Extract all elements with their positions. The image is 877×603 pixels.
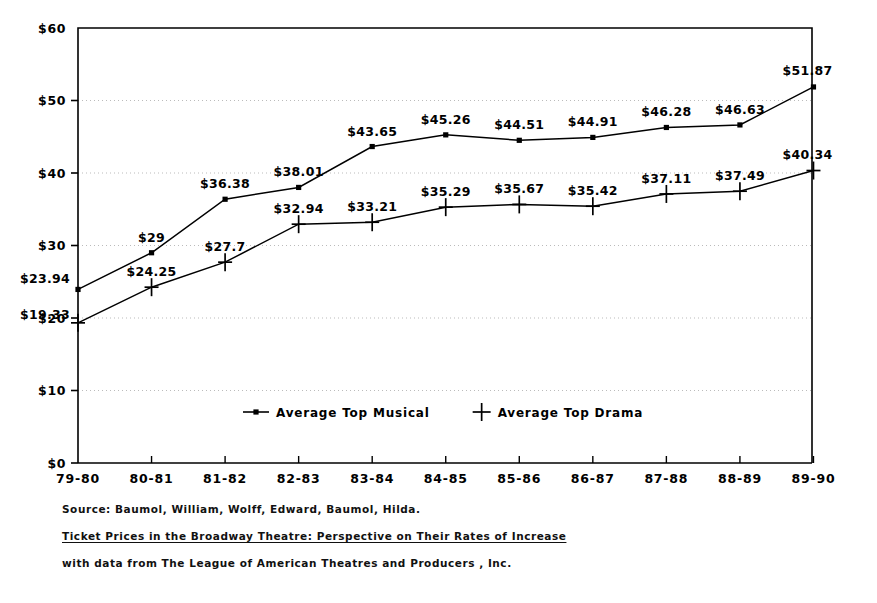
data-point-marker <box>811 84 816 89</box>
data-point-marker <box>443 132 448 137</box>
data-point-label: $46.28 <box>641 104 691 119</box>
data-point-label: $19.33 <box>20 307 70 322</box>
data-point-label: $23.94 <box>20 271 70 286</box>
legend-square-marker-icon <box>243 409 269 414</box>
source-title-line: Ticket Prices in the Broadway Theatre: P… <box>62 530 822 543</box>
data-point-label: $43.65 <box>347 124 397 139</box>
y-axis-tick-label: $30 <box>38 238 66 253</box>
legend-item-musical[interactable]: Average Top Musical <box>243 406 430 420</box>
data-point-label: $24.25 <box>127 264 177 279</box>
y-axis-tick-label: $0 <box>47 456 66 471</box>
data-point-label: $32.94 <box>274 201 324 216</box>
data-point-marker <box>370 144 375 149</box>
source-dataset-line: with data from The League of American Th… <box>62 557 822 570</box>
data-point-marker <box>75 287 80 292</box>
data-point-label: $44.91 <box>568 114 618 129</box>
data-point-label: $35.29 <box>421 184 471 199</box>
legend-item-drama[interactable]: Average Top Drama <box>473 403 644 421</box>
data-point-label: $46.63 <box>715 102 765 117</box>
data-point-marker <box>590 135 595 140</box>
chart-container: $0$10$20$30$40$50$6079-8080-8181-8282-83… <box>0 0 877 603</box>
data-point-label: $27.7 <box>205 239 246 254</box>
x-axis-tick-label: 80-81 <box>130 471 174 486</box>
x-axis-tick-label: 84-85 <box>424 471 468 486</box>
data-point-marker <box>222 197 227 202</box>
source-citation-line: Source: Baumol, William, Wolff, Edward, … <box>62 503 822 516</box>
data-point-label: $45.26 <box>421 112 471 127</box>
x-axis-tick-label: 85-86 <box>497 471 541 486</box>
y-axis-tick-label: $50 <box>38 93 66 108</box>
x-axis-tick-label: 86-87 <box>571 471 615 486</box>
source-note-block: Source: Baumol, William, Wolff, Edward, … <box>62 503 822 584</box>
data-point-label: $36.38 <box>200 176 250 191</box>
plot-border <box>78 28 812 463</box>
data-point-marker <box>517 138 522 143</box>
data-point-marker <box>296 185 301 190</box>
data-point-label: $38.01 <box>274 164 324 179</box>
y-axis-tick-label: $10 <box>38 383 66 398</box>
data-point-label: $29 <box>138 230 165 245</box>
x-axis-tick-label: 88-89 <box>718 471 762 486</box>
legend-plus-marker-icon <box>473 403 491 421</box>
data-point-marker <box>664 125 669 130</box>
data-point-label: $33.21 <box>347 199 397 214</box>
data-point-label: $35.67 <box>494 181 544 196</box>
data-point-label: $35.42 <box>568 183 618 198</box>
legend-item-label: Average Top Musical <box>276 406 430 420</box>
data-point-marker <box>149 250 154 255</box>
y-axis-tick-label: $60 <box>38 21 66 36</box>
y-axis-tick-label: $40 <box>38 166 66 181</box>
data-point-label: $44.51 <box>494 117 544 132</box>
legend-item-label: Average Top Drama <box>498 406 644 420</box>
x-axis-tick-label: 87-88 <box>644 471 688 486</box>
data-point-label: $51.87 <box>782 63 832 78</box>
x-axis-tick-label: 89-90 <box>791 471 835 486</box>
x-axis-tick-label: 83-84 <box>350 471 394 486</box>
x-axis-tick-label: 81-82 <box>203 471 247 486</box>
x-axis-tick-label: 79-80 <box>56 471 100 486</box>
data-point-label: $40.34 <box>782 147 832 162</box>
data-point-label: $37.11 <box>641 171 691 186</box>
data-point-marker <box>737 122 742 127</box>
data-point-label: $37.49 <box>715 168 765 183</box>
x-axis-tick-label: 82-83 <box>277 471 321 486</box>
